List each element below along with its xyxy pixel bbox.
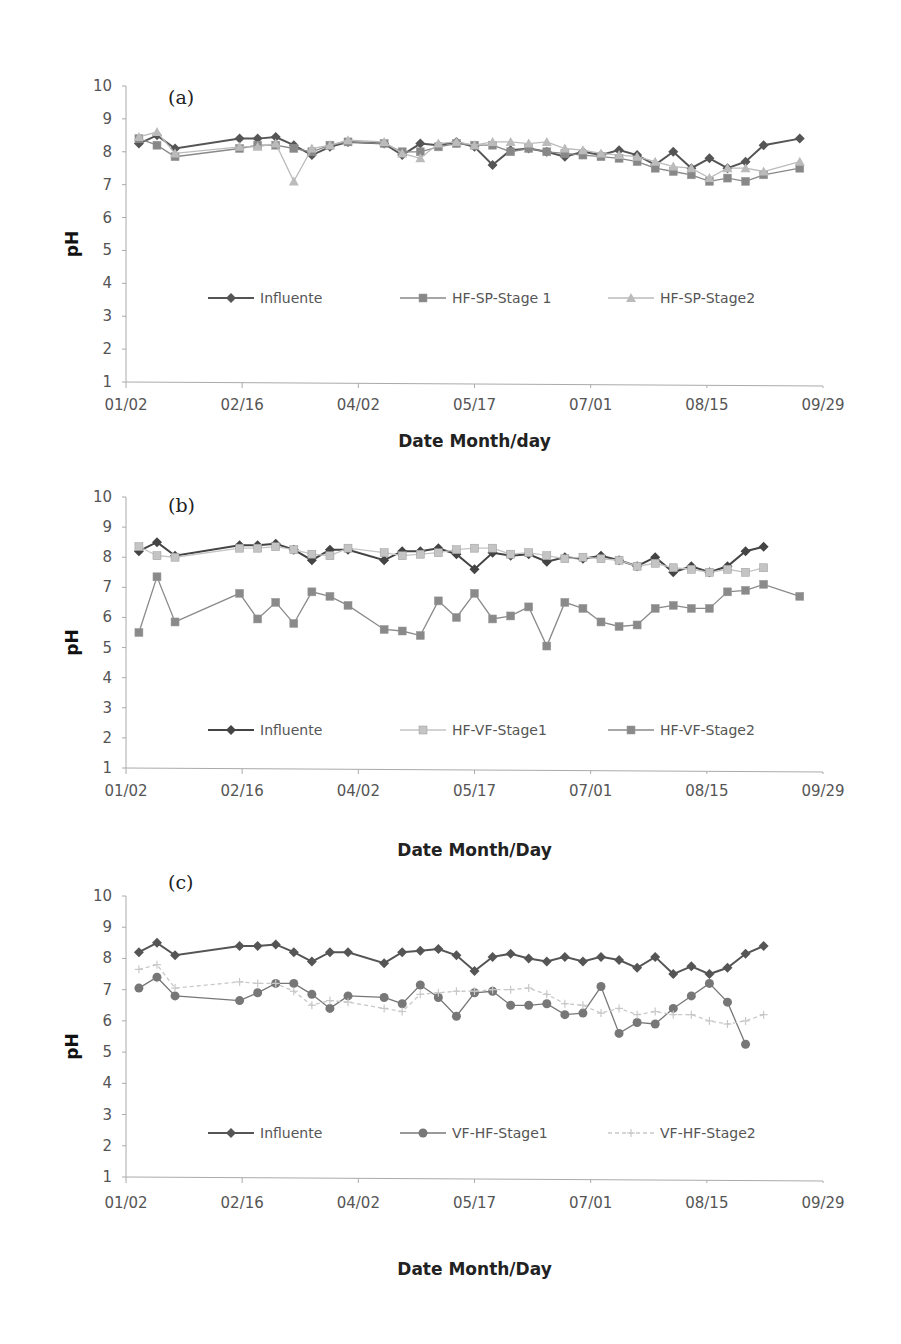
circle-marker-icon [380,993,389,1002]
square-marker-icon [579,604,587,612]
triangle-marker-icon [289,176,299,185]
y-tick-label: 5 [102,639,112,657]
x-tick-label: 04/02 [337,782,380,800]
x-tick-label: 09/29 [801,782,844,800]
diamond-marker-icon [596,952,606,962]
square-marker-icon [651,604,659,612]
x-tick-label: 02/16 [221,782,264,800]
circle-marker-icon [452,1012,461,1021]
diamond-marker-icon [253,941,263,951]
y-tick-label: 3 [102,307,112,325]
square-marker-icon [597,618,605,626]
square-marker-icon [153,552,161,560]
y-tick-label: 2 [102,1137,112,1155]
circle-marker-icon [723,998,732,1007]
x-tick-label: 05/17 [453,396,496,414]
y-tick-label: 10 [93,488,112,506]
x-tick-label: 02/16 [221,1194,264,1212]
square-marker-icon [742,177,750,185]
square-marker-icon [272,598,280,606]
circle-marker-icon [560,1010,569,1019]
circle-marker-icon [741,1040,750,1049]
y-tick-label: 8 [102,548,112,566]
square-marker-icon [543,642,551,650]
legend-label: HF-VF-Stage2 [660,722,755,738]
y-tick-label: 1 [102,759,112,777]
panel-label: (a) [168,86,194,108]
legend-label: Influente [260,1125,322,1141]
square-marker-icon [434,597,442,605]
square-marker-icon [254,544,262,552]
diamond-marker-icon [271,939,281,949]
diamond-marker-icon [506,949,516,959]
square-marker-icon [344,601,352,609]
chart-a-svg: 1234567891001/0202/1604/0205/1707/0108/1… [0,70,901,470]
diamond-marker-icon [524,953,534,963]
y-tick-label: 4 [102,1074,112,1092]
panel-label: (b) [168,494,195,516]
square-marker-icon [705,604,713,612]
diamond-marker-icon [759,542,769,552]
diamond-marker-icon [325,947,335,957]
square-marker-icon [561,598,569,606]
diamond-marker-icon [686,961,696,971]
square-marker-icon [171,618,179,626]
triangle-marker-icon [542,137,552,146]
legend-label: VF-HF-Stage1 [452,1125,548,1141]
square-marker-icon [633,621,641,629]
diamond-marker-icon [415,946,425,956]
circle-marker-icon [253,988,262,997]
circle-marker-icon [398,999,407,1008]
series-vf-hf-stage1 [134,973,750,1049]
square-marker-icon [723,588,731,596]
square-marker-icon [471,544,479,552]
square-marker-icon [135,543,143,551]
y-tick-label: 6 [102,1012,112,1030]
legend-item: HF-VF-Stage2 [608,722,755,738]
diamond-marker-icon [614,955,624,965]
square-marker-icon [416,632,424,640]
square-marker-icon [326,592,334,600]
y-tick-label: 10 [93,77,112,95]
y-tick-label: 1 [102,1168,112,1186]
square-marker-icon [419,726,427,734]
chart-legend: InfluenteHF-SP-Stage 1HF-SP-Stage2 [208,290,755,306]
x-tick-label: 08/15 [685,782,728,800]
circle-marker-icon [651,1020,660,1029]
x-tick-label: 01/02 [104,782,147,800]
series-hf-vf-stage2 [135,573,804,650]
square-marker-icon [290,144,298,152]
square-marker-icon [507,550,515,558]
legend-item: VF-HF-Stage1 [400,1125,548,1141]
series-hf-sp-stage-1 [135,135,804,186]
diamond-marker-icon [560,952,570,962]
series-influente [134,938,769,979]
legend-item: Influente [208,290,322,306]
legend-label: HF-VF-Stage1 [452,722,547,738]
triangle-marker-icon [152,127,162,136]
square-marker-icon [597,555,605,563]
square-marker-icon [326,552,334,560]
circle-marker-icon [289,979,298,988]
y-tick-label: 5 [102,241,112,259]
square-marker-icon [760,564,768,572]
square-marker-icon [171,553,179,561]
diamond-marker-icon [226,1128,236,1138]
x-tick-label: 08/15 [685,1194,728,1212]
circle-marker-icon [325,1004,334,1013]
circle-marker-icon [578,1009,587,1018]
square-marker-icon [489,615,497,623]
legend-item: VF-HF-Stage2 [608,1125,756,1141]
legend-label: HF-SP-Stage2 [660,290,755,306]
square-marker-icon [236,589,244,597]
square-marker-icon [416,550,424,558]
diamond-marker-icon [235,941,245,951]
diamond-marker-icon [307,957,317,967]
chart-panel-c: 1234567891001/0202/1604/0205/1707/0108/1… [0,875,901,1295]
circle-marker-icon [416,980,425,989]
square-marker-icon [380,625,388,633]
square-marker-icon [633,562,641,570]
y-tick-label: 7 [102,176,112,194]
circle-marker-icon [419,1129,428,1138]
x-axis-title: Date Month/day [398,431,551,451]
